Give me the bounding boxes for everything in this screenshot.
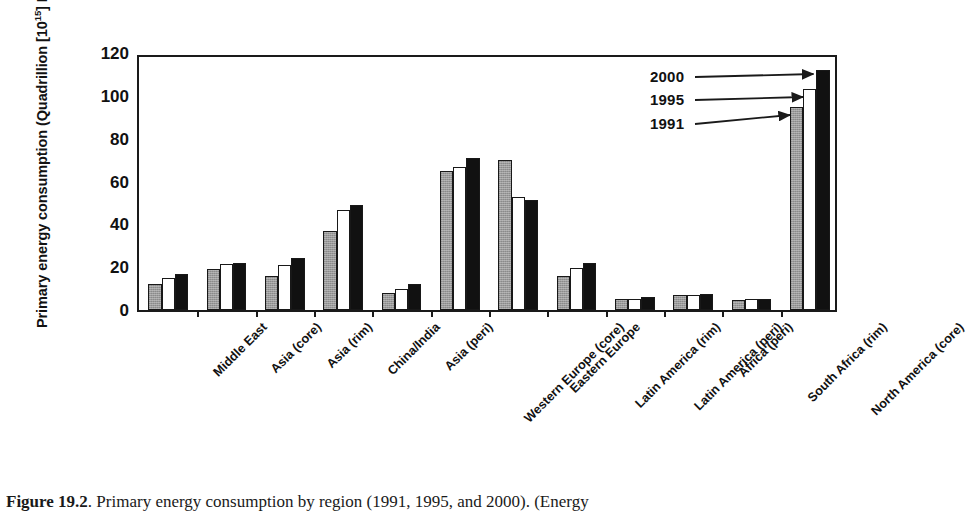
bar-1995[interactable] <box>803 89 816 310</box>
bar-1995[interactable] <box>220 264 233 310</box>
bar-group <box>790 57 830 310</box>
bar-1991[interactable] <box>323 231 336 310</box>
bar-1991[interactable] <box>265 276 278 310</box>
bar-1991[interactable] <box>790 107 803 310</box>
x-axis-label: China/India <box>385 320 443 378</box>
y-axis-title-wrapper: Primary energy consumption (Quadrillion … <box>6 28 36 328</box>
bar-2000[interactable] <box>291 258 304 310</box>
bar-group <box>440 57 480 310</box>
bar-1995[interactable] <box>278 265 291 310</box>
bar-1991[interactable] <box>148 284 161 310</box>
x-axis-label: Western Europe (core) <box>521 320 626 425</box>
figure-caption: Figure 19.2. Primary energy consumption … <box>6 492 882 512</box>
x-axis-label: Asia (rim) <box>324 320 375 371</box>
bar-1995[interactable] <box>570 268 583 310</box>
bar-1995[interactable] <box>453 167 466 310</box>
bar-2000[interactable] <box>466 158 479 310</box>
bar-1995[interactable] <box>162 278 175 310</box>
bar-group <box>265 57 305 310</box>
bar-1995[interactable] <box>628 299 641 310</box>
bar-2000[interactable] <box>758 299 771 310</box>
bar-group <box>498 57 538 310</box>
bar-1991[interactable] <box>557 276 570 310</box>
annotation-label-1995: 1995 <box>650 91 684 108</box>
bar-2000[interactable] <box>641 297 654 310</box>
x-axis-label: Middle East <box>211 320 270 379</box>
y-axis-title-tail: ] BTU) <box>34 0 50 11</box>
bar-2000[interactable] <box>408 284 421 310</box>
bar-1995[interactable] <box>395 289 408 310</box>
bar-group <box>323 57 363 310</box>
x-axis-labels: Middle EastAsia (core)Asia (rim)China/In… <box>0 312 882 472</box>
x-axis-label: South Africa (rim) <box>805 320 890 405</box>
bar-1995[interactable] <box>512 197 525 311</box>
plot-area <box>137 55 837 312</box>
y-axis-tick-label: 120 <box>101 44 129 64</box>
bar-group <box>148 57 188 310</box>
bar-2000[interactable] <box>175 274 188 310</box>
bar-1991[interactable] <box>732 300 745 310</box>
bar-1995[interactable] <box>337 210 350 310</box>
y-axis-tick-label: 20 <box>110 258 129 278</box>
y-axis-title: Primary energy consumption (Quadrillion … <box>32 0 50 328</box>
bar-groups <box>139 57 835 310</box>
bar-2000[interactable] <box>816 70 829 310</box>
bar-group <box>382 57 422 310</box>
x-axis-label: Asia (peri) <box>442 320 495 373</box>
bar-group <box>557 57 597 310</box>
bar-1991[interactable] <box>673 295 686 310</box>
caption-text: . Primary energy consumption by region (… <box>88 492 589 511</box>
bar-group <box>615 57 655 310</box>
y-axis-tick-label: 100 <box>101 87 129 107</box>
bar-2000[interactable] <box>233 263 246 310</box>
y-axis-title-main: Primary energy consumption (Quadrillion … <box>34 21 50 328</box>
x-axis-label: Asia (core) <box>268 320 324 376</box>
annotation-label-1991: 1991 <box>650 115 684 132</box>
y-axis-tick-label: 80 <box>110 130 129 150</box>
caption-figure-number: Figure 19.2 <box>6 492 88 511</box>
bar-1991[interactable] <box>382 293 395 310</box>
y-axis-tick-label: 60 <box>110 173 129 193</box>
bar-1991[interactable] <box>440 171 453 310</box>
bar-1995[interactable] <box>687 295 700 310</box>
bar-1991[interactable] <box>615 299 628 310</box>
y-axis-tick-label: 40 <box>110 215 129 235</box>
bar-1991[interactable] <box>498 160 511 310</box>
bar-1991[interactable] <box>207 269 220 310</box>
bar-1995[interactable] <box>745 299 758 310</box>
bar-group <box>732 57 772 310</box>
bar-2000[interactable] <box>350 205 363 310</box>
y-axis-title-exponent: 15 <box>32 11 43 21</box>
bar-2000[interactable] <box>700 294 713 310</box>
bar-group <box>207 57 247 310</box>
bar-2000[interactable] <box>583 263 596 310</box>
annotation-label-2000: 2000 <box>650 68 684 85</box>
bar-2000[interactable] <box>525 200 538 310</box>
